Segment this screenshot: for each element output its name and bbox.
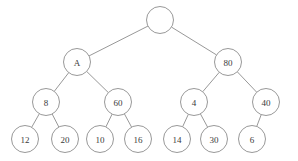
node-circle [253,89,280,116]
tree-edge-n-a-to-n-8 [54,73,68,92]
tree-edge-n-a-to-n-60 [87,71,109,92]
binary-tree-diagram: A808604401220101614306 [0,0,298,161]
tree-edge-root-to-n-a [89,26,148,56]
tree-node-empty-root[interactable] [147,7,174,34]
node-circle [105,89,132,116]
tree-node-16[interactable]: 16 [125,126,152,153]
node-circle [33,89,60,116]
node-circle [181,89,208,116]
tree-node-A[interactable]: A [64,49,91,76]
tree-node-20[interactable]: 20 [52,126,79,153]
tree-nodes: A808604401220101614306 [12,7,280,153]
node-circle [215,49,242,76]
tree-node-14[interactable]: 14 [164,126,191,153]
tree-node-4[interactable]: 4 [181,89,208,116]
tree-node-12[interactable]: 12 [12,126,39,153]
tree-node-40[interactable]: 40 [253,89,280,116]
tree-node-60[interactable]: 60 [105,89,132,116]
tree-node-10[interactable]: 10 [87,126,114,153]
node-circle [125,126,152,153]
tree-edge-n-4-to-n-30 [200,114,207,127]
tree-edge-n-60-to-n-16 [124,114,131,127]
tree-node-8[interactable]: 8 [33,89,60,116]
node-circle [52,126,79,153]
tree-node-6[interactable]: 6 [239,126,266,153]
tree-node-80[interactable]: 80 [215,49,242,76]
tree-edge-n-40-to-n-6 [257,115,261,127]
tree-edge-root-to-n-80 [171,27,216,55]
node-circle [147,7,174,34]
tree-edge-n-60-to-n-10 [106,114,112,127]
tree-node-30[interactable]: 30 [201,126,228,153]
tree-edge-n-4-to-n-14 [183,114,189,126]
node-circle [164,126,191,153]
node-circle [239,126,266,153]
tree-canvas: A808604401220101614306 [0,0,298,161]
node-circle [201,126,228,153]
tree-edges [32,26,262,127]
tree-edge-n-80-to-n-4 [203,72,220,91]
tree-edge-n-80-to-n-40 [237,72,256,92]
node-circle [12,126,39,153]
node-circle [87,126,114,153]
tree-edge-n-8-to-n-12 [32,114,40,128]
node-circle [64,49,91,76]
tree-edge-n-8-to-n-20 [52,114,59,127]
